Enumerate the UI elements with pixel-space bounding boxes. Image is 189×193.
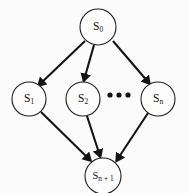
node-label-s1-sub: 1: [30, 98, 34, 107]
node-label-sn1: Sn + 1: [92, 171, 113, 182]
node-label-s2-base: S: [78, 92, 85, 104]
edge-s1-sn1: [41, 112, 90, 160]
node-label-sn: Sn: [153, 93, 163, 105]
edge-sn-sn1: [117, 113, 148, 160]
node-label-s1: S1: [24, 93, 34, 105]
node-label-s0-base: S: [93, 20, 100, 32]
node-group: [12, 9, 175, 193]
ellipsis-dot-2: [116, 92, 121, 97]
node-label-s1-base: S: [24, 92, 31, 104]
node-label-sn1-sub: n + 1: [98, 174, 113, 183]
node-label-s0: S0: [93, 21, 103, 33]
ellipsis-dot-3: [125, 92, 130, 97]
edge-s0-sn: [113, 41, 149, 83]
diagram-canvas: S0 S1 S2 Sn Sn + 1: [0, 0, 189, 193]
edge-s0-s2: [84, 45, 94, 80]
node-label-sn-base: S: [153, 92, 160, 104]
node-label-sn-sub: n: [159, 98, 163, 107]
node-label-s0-sub: 0: [99, 26, 103, 35]
ellipsis-icon: [107, 92, 130, 97]
edge-s2-sn1: [87, 116, 100, 156]
ellipsis-dot-1: [107, 92, 112, 97]
node-label-s2-sub: 2: [84, 98, 88, 107]
edge-s0-s1: [39, 41, 85, 85]
node-label-s2: S2: [78, 93, 88, 105]
